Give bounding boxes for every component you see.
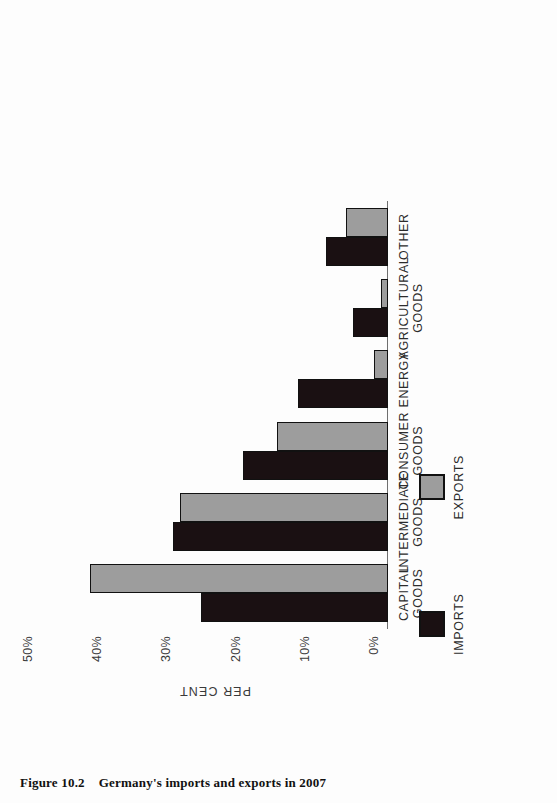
value-axis-tick: 0% [367, 636, 381, 655]
value-axis-tick: 30% [159, 636, 173, 662]
bar-groups: CAPITAL GOODSINTERMEDIATE GOODSCONSUMER … [42, 201, 388, 629]
figure-caption-text: Germany's imports and exports in 2007 [99, 775, 326, 790]
bar-imports [201, 593, 388, 622]
category-label: ENERGY [397, 351, 411, 407]
legend-label: EXPORTS [452, 455, 466, 519]
category-label: OTHER [397, 213, 411, 260]
bar-imports [353, 308, 388, 337]
figure-caption: Figure 10.2Germany's imports and exports… [20, 775, 557, 791]
legend-item-exports: EXPORTS [419, 455, 466, 519]
bar-exports [346, 208, 388, 237]
chart-legend: IMPORTSEXPORTS [419, 455, 466, 655]
bar-group: ENERGY [42, 344, 388, 415]
scanned-page: PER CENT 0%10%20%30%40%50% CAPITAL GOODS… [0, 0, 557, 803]
bar-chart: PER CENT 0%10%20%30%40%50% CAPITAL GOODS… [34, 115, 464, 715]
bar-group: OTHER [42, 201, 388, 272]
value-axis-title: PER CENT [179, 684, 251, 698]
bar-exports [277, 422, 388, 451]
bar-exports [381, 279, 388, 308]
bar-group: CONSUMER GOODS [42, 415, 388, 486]
value-axis-tick: 50% [21, 636, 35, 662]
figure-number: Figure 10.2 [20, 775, 85, 790]
plot-area: PER CENT 0%10%20%30%40%50% CAPITAL GOODS… [42, 201, 388, 629]
bar-imports [173, 522, 388, 551]
bar-exports [90, 564, 388, 593]
legend-swatch-icon [419, 474, 445, 500]
bar-exports [374, 350, 388, 379]
bar-imports [298, 379, 388, 408]
bar-group: CAPITAL GOODS [42, 558, 388, 629]
figure-rotated-container: PER CENT 0%10%20%30%40%50% CAPITAL GOODS… [0, 0, 557, 803]
bar-group: INTERMEDIATE GOODS [42, 486, 388, 557]
bar-group: AGRICULTURAL GOODS [42, 272, 388, 343]
legend-label: IMPORTS [452, 593, 466, 655]
bar-imports [243, 451, 388, 480]
value-axis-tick: 20% [229, 636, 243, 662]
bar-exports [180, 493, 388, 522]
value-axis-tick: 10% [298, 636, 312, 662]
legend-item-imports: IMPORTS [419, 593, 466, 655]
bar-imports [326, 237, 388, 266]
value-axis-tick: 40% [90, 636, 104, 662]
category-label: AGRICULTURAL GOODS [397, 257, 426, 360]
legend-swatch-icon [419, 611, 445, 637]
